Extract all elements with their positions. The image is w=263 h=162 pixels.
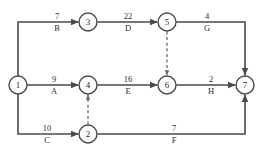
node-1-label: 1 — [16, 80, 21, 90]
edge-F-name: F — [172, 135, 177, 145]
node-7[interactable]: 7 — [236, 76, 254, 94]
edge-A-duration: 9 — [52, 74, 56, 84]
node-3[interactable]: 3 — [79, 13, 97, 31]
edge-D-name: D — [125, 23, 131, 33]
edge-H-name: H — [208, 86, 214, 96]
edge-E-name: E — [125, 86, 130, 96]
node-2[interactable]: 2 — [79, 125, 97, 143]
node-4-label: 4 — [86, 80, 91, 90]
node-7-label: 7 — [243, 80, 248, 90]
node-4[interactable]: 4 — [79, 76, 97, 94]
edge-G-name: G — [204, 23, 210, 33]
node-6-label: 6 — [165, 80, 170, 90]
edge-A-name: A — [51, 86, 58, 96]
edge-H-duration: 2 — [209, 74, 213, 84]
edge-C-duration: 10 — [43, 123, 52, 133]
node-6[interactable]: 6 — [158, 76, 176, 94]
node-5[interactable]: 5 — [158, 13, 176, 31]
edge-B-name: B — [54, 23, 60, 33]
edge-G-duration: 4 — [205, 11, 210, 21]
edge-B-duration: 7 — [55, 11, 59, 21]
node-5-label: 5 — [165, 17, 170, 27]
edge-D-duration: 22 — [124, 11, 133, 21]
network-canvas: 1 2 3 4 5 6 7 — [0, 0, 263, 162]
node-1[interactable]: 1 — [9, 76, 27, 94]
edge-B-path — [18, 22, 78, 76]
edge-E-duration: 16 — [124, 74, 133, 84]
node-3-label: 3 — [86, 17, 91, 27]
edge-C-name: C — [44, 135, 50, 145]
edge-G-path — [176, 22, 245, 75]
node-2-label: 2 — [86, 129, 91, 139]
aoa-network-diagram: 1 2 3 4 5 6 7 — [0, 0, 263, 162]
edge-F-duration: 7 — [172, 123, 176, 133]
edge-labels-layer: 7 B 22 D 4 G 9 A 16 E 2 H 10 C 7 F — [43, 11, 214, 145]
